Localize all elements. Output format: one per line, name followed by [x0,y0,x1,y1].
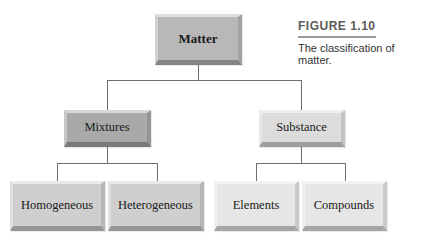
connector-to-elements [256,163,257,181]
connector-to-mixtures [107,80,108,110]
figure-label: FIGURE 1.10 [298,19,376,38]
connector-substance-down [301,146,302,163]
node-compounds: Compounds [302,181,387,231]
node-heterogeneous-label: Heterogeneous [118,198,193,213]
connector-substance-horizontal [256,163,346,164]
node-heterogeneous: Heterogeneous [108,181,204,231]
connector-mixtures-down [107,146,108,163]
node-mixtures: Mixtures [64,110,151,147]
node-elements: Elements [214,181,299,231]
node-matter: Matter [155,14,242,65]
figure-caption-text: The classification of matter. [298,42,427,66]
node-substance: Substance [259,110,345,147]
node-homogeneous: Homogeneous [10,181,105,231]
connector-to-compounds [345,163,346,181]
connector-to-heterogeneous [157,163,158,181]
node-substance-label: Substance [276,120,327,135]
connector-to-substance [301,80,302,110]
figure-caption: FIGURE 1.10 The classification of matter… [298,16,427,66]
node-matter-label: Matter [179,31,218,47]
connector-root-down [198,64,199,80]
node-homogeneous-label: Homogeneous [21,198,93,213]
node-mixtures-label: Mixtures [84,120,129,135]
node-compounds-label: Compounds [314,198,374,213]
connector-level1-horizontal [107,80,302,81]
connector-mixtures-horizontal [57,163,158,164]
connector-to-homogeneous [57,163,58,181]
node-elements-label: Elements [233,198,280,213]
